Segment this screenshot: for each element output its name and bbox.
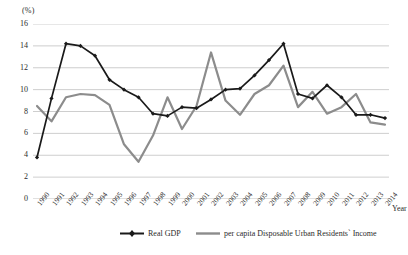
legend-label-urban-income: per capita Disposable Urban Residents` I… bbox=[224, 229, 377, 238]
data-point-marker bbox=[49, 96, 53, 100]
legend-item-real-gdp: Real GDP bbox=[120, 229, 181, 238]
chart-canvas bbox=[33, 24, 389, 199]
legend-swatch-line bbox=[196, 229, 220, 238]
data-point-marker bbox=[368, 113, 372, 117]
data-series-layer bbox=[35, 42, 387, 162]
y-axis-tick-label: 14 bbox=[12, 41, 28, 50]
data-point-marker bbox=[35, 155, 39, 159]
data-point-marker bbox=[383, 116, 387, 120]
y-axis-tick-label: 6 bbox=[12, 128, 28, 137]
data-point-marker bbox=[296, 92, 300, 96]
series-line bbox=[37, 52, 385, 161]
y-axis-unit-label: (%) bbox=[22, 6, 35, 15]
legend-label-real-gdp: Real GDP bbox=[148, 229, 181, 238]
y-axis-tick-label: 4 bbox=[12, 150, 28, 159]
y-axis-tick-label: 10 bbox=[12, 85, 28, 94]
y-axis-tick-label: 16 bbox=[12, 19, 28, 28]
x-axis-title: Year bbox=[392, 204, 407, 213]
data-point-marker bbox=[64, 42, 68, 46]
y-axis-tick-label: 12 bbox=[12, 63, 28, 72]
plot-area bbox=[33, 24, 389, 199]
chart-figure: (%) 0246810121416 1990199119921993199419… bbox=[0, 0, 408, 255]
y-axis-tick-label: 8 bbox=[12, 107, 28, 116]
chart-legend: Real GDP per capita Disposable Urban Res… bbox=[0, 229, 408, 249]
legend-item-urban-income: per capita Disposable Urban Residents` I… bbox=[196, 229, 377, 238]
legend-swatch-line-marker bbox=[120, 229, 144, 238]
y-axis-tick-label: 0 bbox=[12, 194, 28, 203]
y-axis-tick-label: 2 bbox=[12, 172, 28, 181]
